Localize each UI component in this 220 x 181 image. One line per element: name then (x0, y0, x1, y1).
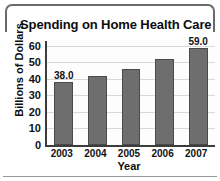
bottom-divider (3, 176, 217, 177)
x-tick-label: 2003 (45, 148, 79, 159)
bar (88, 76, 107, 145)
y-axis-tick-labels: 0102030405060 (16, 41, 41, 145)
bar-value-label: 59.0 (181, 36, 215, 47)
y-tick-label: 50 (19, 57, 41, 68)
bar-value-label: 38.0 (47, 70, 81, 81)
plot-area: 38.059.0 (45, 41, 215, 147)
plot-inner: 38.059.0 (47, 41, 215, 145)
x-axis-title: Year (45, 160, 213, 172)
bar (155, 59, 174, 145)
x-tick-label: 2006 (146, 148, 180, 159)
chart-figure: Spending on Home Health Care Billions of… (0, 0, 220, 181)
y-tick-label: 60 (19, 41, 41, 52)
y-tick-label: 20 (19, 107, 41, 118)
y-tick-label: 0 (19, 140, 41, 151)
bar (189, 48, 208, 145)
y-tick-label: 30 (19, 90, 41, 101)
x-tick-label: 2007 (179, 148, 213, 159)
bar (54, 82, 73, 145)
x-tick-label: 2004 (79, 148, 113, 159)
y-tick-label: 10 (19, 123, 41, 134)
chart-title: Spending on Home Health Care (20, 17, 212, 32)
x-tick-label: 2005 (112, 148, 146, 159)
bar (122, 69, 141, 145)
y-tick-label: 40 (19, 74, 41, 85)
title-frame: Spending on Home Health Care (5, 4, 215, 34)
